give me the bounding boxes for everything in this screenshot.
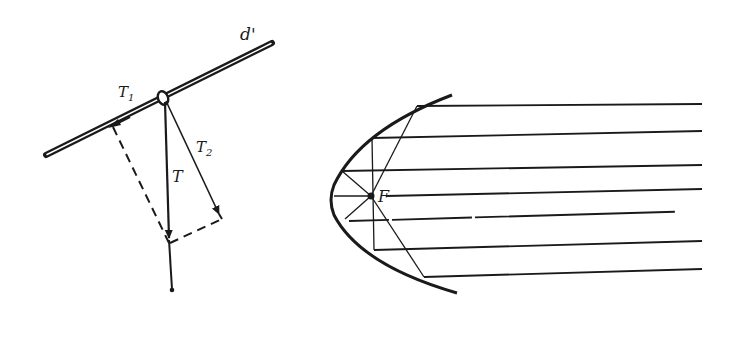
ray-6 [374, 241, 702, 250]
reflected-ray-3 [342, 171, 371, 196]
hanging-string [169, 240, 172, 289]
ray-7 [424, 269, 702, 277]
parabolic-reflector-figure: F [331, 95, 702, 293]
label-focus: F [377, 187, 390, 206]
label-t2: T2 [196, 138, 212, 158]
label-t: T [172, 167, 184, 186]
parallel-rays [342, 104, 702, 277]
ray-4 [386, 189, 702, 196]
reflected-ray-1 [371, 106, 417, 196]
focus-point [368, 193, 375, 200]
t-vector [165, 102, 169, 238]
ray-3 [342, 165, 702, 171]
ray-5 [349, 211, 702, 221]
dashed-edge-t1-to-t [113, 127, 169, 243]
force-decomposition-figure: d' T1 T2 T [46, 24, 272, 292]
string-end-dot [170, 288, 175, 293]
label-d-prime: d' [240, 24, 256, 44]
ray-1 [417, 104, 702, 106]
diagram-canvas: d' T1 T2 T [0, 0, 740, 340]
dashed-edge-t-to-t2 [170, 219, 222, 243]
label-t1: T1 [118, 83, 134, 103]
ray-2 [372, 131, 702, 138]
